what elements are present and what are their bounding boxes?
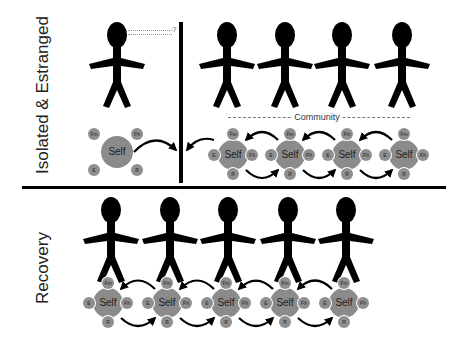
friends-node: Fh <box>121 297 133 309</box>
employment-node: E <box>201 297 213 309</box>
isolated-person-figure <box>87 20 147 110</box>
community-person-figure <box>312 20 372 110</box>
employment-node: E <box>208 149 220 161</box>
self-node: Self <box>152 288 182 318</box>
recreation-node: R <box>220 316 232 328</box>
self-node: Self <box>329 288 359 318</box>
recreation-node: R <box>227 168 239 180</box>
family-node: Fm <box>161 277 173 289</box>
recovery-person-figure <box>316 195 376 285</box>
self-node: Self <box>211 288 241 318</box>
recreation-node: R <box>338 316 350 328</box>
friends-node: Fh <box>131 128 143 140</box>
self-node: Self <box>332 140 362 170</box>
employment-node: E <box>319 297 331 309</box>
family-node: Fm <box>284 128 296 140</box>
community-person-figure <box>372 20 432 110</box>
community-person-figure <box>255 20 315 110</box>
family-node: Fm <box>220 277 232 289</box>
employment-node: E <box>379 149 391 161</box>
friends-node: Fh <box>303 149 315 161</box>
self-node: Self <box>389 140 419 170</box>
recreation-node: R <box>102 316 114 328</box>
recreation-node: R <box>131 164 143 176</box>
recreation-node: R <box>284 168 296 180</box>
employment-node: E <box>265 149 277 161</box>
community-label: Community <box>292 112 342 122</box>
employment-node: E <box>83 297 95 309</box>
question-mark: ? <box>172 25 176 34</box>
self-node: Self <box>218 140 248 170</box>
recovery-person-figure <box>198 195 258 285</box>
section-label-isolated: Isolated & Estranged <box>33 16 53 174</box>
family-node: Fm <box>338 277 350 289</box>
recreation-node: R <box>279 316 291 328</box>
family-node: Fm <box>227 128 239 140</box>
recovery-person-figure <box>258 195 318 285</box>
friends-node: Fh <box>298 297 310 309</box>
recreation-node: R <box>398 168 410 180</box>
family-node: Fm <box>398 128 410 140</box>
isolated-self-node: Self <box>101 136 133 168</box>
friends-node: Fh <box>246 149 258 161</box>
self-node: Self <box>93 288 123 318</box>
recreation-node: R <box>161 316 173 328</box>
friends-node: Fh <box>360 149 372 161</box>
family-node: Fm <box>341 128 353 140</box>
community-person-figure <box>197 20 257 110</box>
recreation-node: R <box>341 168 353 180</box>
isolation-barrier <box>179 22 183 183</box>
friends-node: Fh <box>180 297 192 309</box>
friends-node: Fh <box>357 297 369 309</box>
friends-node: Fh <box>239 297 251 309</box>
employment-node: E <box>88 164 100 176</box>
employment-node: E <box>142 297 154 309</box>
family-node: Fm <box>88 128 100 140</box>
self-node: Self <box>275 140 305 170</box>
self-node: Self <box>270 288 300 318</box>
employment-node: E <box>322 149 334 161</box>
section-label-recovery: Recovery <box>33 232 53 304</box>
section-divider <box>22 186 446 189</box>
family-node: Fm <box>102 277 114 289</box>
recovery-person-figure <box>81 195 141 285</box>
employment-node: E <box>260 297 272 309</box>
friends-node: Fh <box>417 149 429 161</box>
recovery-person-figure <box>140 195 200 285</box>
family-node: Fm <box>279 277 291 289</box>
